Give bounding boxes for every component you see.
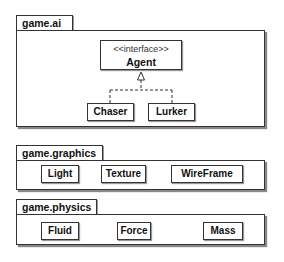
class-fluid: Fluid <box>41 222 79 240</box>
class-wireframe: WireFrame <box>171 165 243 183</box>
class-chaser: Chaser <box>87 103 134 121</box>
class-name: Mass <box>210 225 235 236</box>
class-light: Light <box>41 165 79 183</box>
class-texture: Texture <box>101 165 146 183</box>
class-force: Force <box>117 222 151 240</box>
package-tab-game-physics: game.physics <box>16 199 97 215</box>
class-lurker: Lurker <box>148 103 195 121</box>
package-tab-game-graphics: game.graphics <box>16 145 103 161</box>
class-name: Light <box>48 168 72 179</box>
package-name: game.physics <box>22 201 91 213</box>
realization-arrowhead-icon <box>138 72 145 80</box>
class-name: Chaser <box>94 106 128 117</box>
class-mass: Mass <box>203 222 243 240</box>
class-name: Lurker <box>156 106 187 117</box>
class-name: Fluid <box>48 225 72 236</box>
package-name: game.graphics <box>22 147 96 159</box>
class-name: Texture <box>106 168 141 179</box>
class-name: Force <box>120 225 147 236</box>
class-name: WireFrame <box>181 168 233 179</box>
